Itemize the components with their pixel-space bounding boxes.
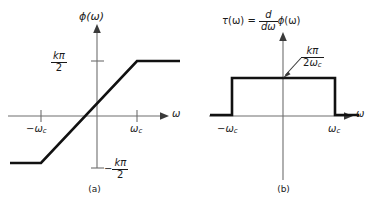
y-tick-label-positive: kπ 2 bbox=[51, 51, 67, 73]
phase-response-curve bbox=[10, 61, 180, 163]
x-tick-label-negative: −ωc bbox=[217, 124, 238, 135]
y-tick-label-negative: − kπ 2 bbox=[104, 158, 128, 180]
x-tick-label-positive: ωc bbox=[328, 124, 340, 135]
pulse-height-annotation: kπ 2ωc bbox=[301, 46, 324, 69]
y-axis bbox=[93, 24, 101, 168]
figure-container: ϕ(ω) kπ 2 − kπ 2 −ωc ωc ω (a) bbox=[0, 0, 378, 209]
panel-b-caption: (b) bbox=[189, 184, 378, 194]
panel-a-plot bbox=[0, 0, 189, 209]
panel-b-title: τ(ω) = d dω ϕ(ω) bbox=[222, 10, 300, 32]
x-axis-label: ω bbox=[356, 109, 364, 119]
y-axis bbox=[279, 32, 287, 180]
y-axis-label: ϕ(ω) bbox=[79, 11, 104, 22]
x-axis-label: ω bbox=[172, 109, 180, 119]
chart-panel-b: τ(ω) = d dω ϕ(ω) kπ 2ωc −ωc ωc ω (b) bbox=[189, 0, 378, 209]
group-delay-pulse bbox=[210, 78, 359, 115]
x-tick-label-negative: −ωc bbox=[26, 124, 47, 135]
x-tick-label-positive: ωc bbox=[130, 124, 142, 135]
annotation-arrow bbox=[283, 58, 301, 78]
chart-panel-a: ϕ(ω) kπ 2 − kπ 2 −ωc ωc ω (a) bbox=[0, 0, 189, 209]
panel-a-caption: (a) bbox=[0, 184, 189, 194]
